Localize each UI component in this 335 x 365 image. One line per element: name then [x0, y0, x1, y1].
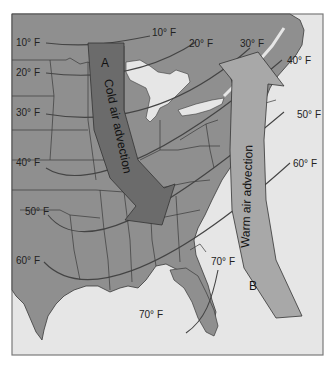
- label-50-left: 50° F: [25, 206, 49, 217]
- label-30-left: 30° F: [16, 107, 40, 118]
- label-10-left: 10° F: [16, 37, 40, 48]
- label-60-left: 60° F: [16, 255, 40, 266]
- cold-arrow-letter: A: [101, 56, 109, 70]
- map-canvas: A B Cold air advection Warm air advectio…: [0, 0, 335, 365]
- warm-arrow-letter: B: [249, 279, 257, 293]
- label-40-left: 40° F: [16, 157, 40, 168]
- label-50-right: 50° F: [297, 109, 321, 120]
- label-20-left: 20° F: [16, 67, 40, 78]
- label-70-right: 70° F: [211, 256, 235, 267]
- label-70-left: 70° F: [139, 309, 163, 320]
- label-20-right: 20° F: [189, 38, 213, 49]
- label-10-right: 10° F: [152, 27, 176, 38]
- label-60-right: 60° F: [293, 158, 317, 169]
- label-40-right: 40° F: [287, 55, 311, 66]
- advection-map: A B Cold air advection Warm air advectio…: [0, 0, 335, 365]
- label-30-right: 30° F: [240, 38, 264, 49]
